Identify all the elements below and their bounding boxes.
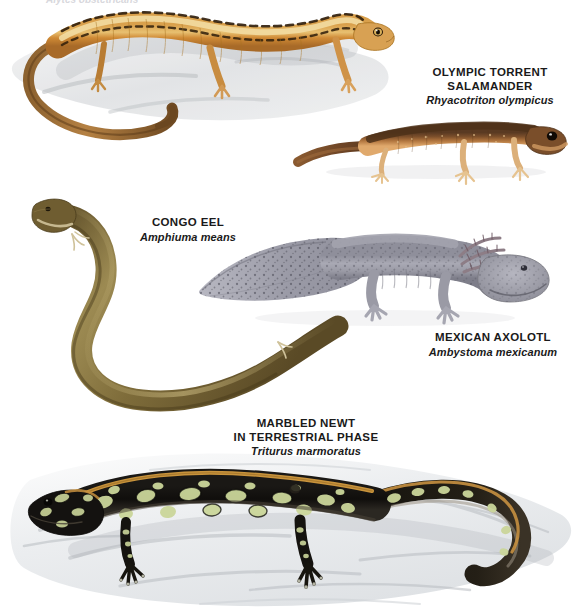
cropped-top-caption: Alytes obstetricans xyxy=(46,0,138,5)
torrent-salamander-head xyxy=(526,127,567,155)
caption-scientific-name: Rhyacotriton olympicus xyxy=(420,94,560,107)
newt-shoulder-knob xyxy=(290,485,301,494)
olympic-torrent-salamander-caption: OLYMPIC TORRENT SALAMANDER Rhyacotriton … xyxy=(420,66,560,107)
caption-common-name-line1: MARBLED NEWT xyxy=(230,417,382,431)
caption-common-name-line2: SALAMANDER xyxy=(420,80,560,94)
olympic-torrent-salamander-illustration xyxy=(286,110,576,195)
marbled-newt-caption: MARBLED NEWT IN TERRESTRIAL PHASE Tritur… xyxy=(230,417,382,458)
axolotl-head xyxy=(478,255,549,302)
caption-common-name: MEXICAN AXOLOTL xyxy=(422,331,564,345)
caption-scientific-name: Triturus marmoratus xyxy=(230,445,382,458)
congo-eel-caption: CONGO EEL Amphiuma means xyxy=(128,216,248,244)
caption-scientific-name: Amphiuma means xyxy=(128,231,248,244)
salamander-head xyxy=(354,23,395,51)
marbled-newt-illustration xyxy=(0,440,577,611)
caption-scientific-name: Ambystoma mexicanum xyxy=(422,346,564,359)
mexican-axolotl-caption: MEXICAN AXOLOTL Ambystoma mexicanum xyxy=(422,331,564,359)
caption-common-name: CONGO EEL xyxy=(128,216,248,230)
illustration-plate: Alytes obstetricans xyxy=(0,0,577,611)
caption-common-name-line1: OLYMPIC TORRENT xyxy=(420,66,560,80)
congo-eel-head xyxy=(32,199,76,232)
caption-common-name-line2: IN TERRESTRIAL PHASE xyxy=(230,431,382,445)
